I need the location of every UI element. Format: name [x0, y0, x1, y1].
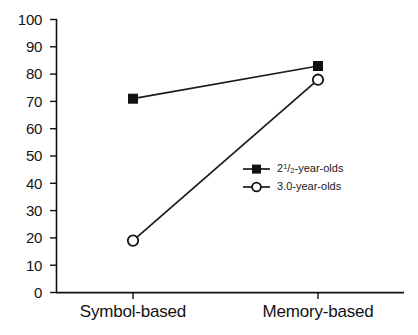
- legend-marker-filled-square-icon: [243, 162, 270, 176]
- y-tick-label-30: 30: [8, 203, 42, 218]
- x-tick-label-symbol-based: Symbol-based: [43, 303, 223, 320]
- y-tick-label-70: 70: [8, 94, 42, 109]
- legend-entry-2-half-year-olds: 21/2-year-olds: [243, 160, 393, 177]
- y-tick-label-80: 80: [8, 66, 42, 81]
- figure: 100 90 80 70 60 50 40 30 20 10 0 Symbol-…: [0, 0, 418, 335]
- data-point-memory-based-3-year: [313, 75, 323, 85]
- figure-caption: [0, 327, 418, 335]
- y-tick-label-50: 50: [8, 148, 42, 163]
- data-point-symbol-based-2-half: [128, 94, 138, 104]
- y-tick-label-0: 0: [8, 285, 42, 300]
- x-tick-label-memory-based: Memory-based: [228, 303, 408, 320]
- data-point-memory-based-2-half: [313, 61, 323, 71]
- y-tick-label-90: 90: [8, 39, 42, 54]
- y-tick-label-40: 40: [8, 176, 42, 191]
- y-tick-label-20: 20: [8, 230, 42, 245]
- y-tick-label-100: 100: [8, 12, 42, 27]
- chart-plot-area: 100 90 80 70 60 50 40 30 20 10 0 Symbol-…: [0, 0, 418, 335]
- legend-entry-3-year-olds: 3.0-year-olds: [243, 178, 393, 195]
- y-tick-label-10: 10: [8, 258, 42, 273]
- series-line-2-half-year-olds: [133, 66, 318, 99]
- data-point-symbol-based-3-year: [128, 235, 138, 245]
- legend-label-2-half-year-olds: 21/2-year-olds: [277, 163, 343, 174]
- legend-label-3-year-olds: 3.0-year-olds: [277, 181, 341, 192]
- legend-marker-open-circle-icon: [243, 180, 270, 194]
- chart-legend: 21/2-year-olds 3.0-year-olds: [243, 160, 393, 196]
- y-tick-label-60: 60: [8, 121, 42, 136]
